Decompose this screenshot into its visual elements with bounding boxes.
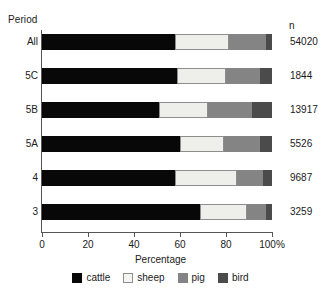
y-tick-label: 4 [2, 170, 38, 186]
bar-segment-cattle [42, 102, 159, 118]
bar-segment-cattle [42, 34, 175, 50]
bar-row: All54020 [42, 34, 272, 50]
n-column-header: n [289, 20, 295, 31]
x-axis-line [41, 232, 273, 233]
legend-swatch-bird [218, 273, 228, 283]
legend-swatch-cattle [72, 273, 82, 283]
chart-legend: cattlesheeppigbird [0, 272, 321, 283]
y-axis-title: Period [8, 14, 38, 25]
bar-segment-cattle [42, 136, 180, 152]
n-value-label: 1844 [290, 68, 321, 84]
x-axis-tick [272, 233, 273, 237]
y-tick-label: 5B [2, 102, 38, 118]
x-axis-tick [180, 233, 181, 237]
plot-area: All540205C18445B139175A55264968733259 [42, 30, 272, 232]
stacked-bar [42, 170, 272, 186]
y-tick-label: 3 [2, 204, 38, 220]
bar-row: 49687 [42, 170, 272, 186]
stacked-bar [42, 34, 272, 50]
legend-label: bird [232, 272, 249, 283]
x-axis-tick [88, 233, 89, 237]
bar-row: 5B13917 [42, 102, 272, 118]
x-tick-label: 40 [128, 239, 139, 250]
bar-segment-bird [260, 68, 272, 84]
bar-row: 33259 [42, 204, 272, 220]
bar-segment-pig [208, 102, 253, 118]
bar-segment-pig [229, 34, 266, 50]
bar-segment-pig [237, 170, 263, 186]
y-tick-label: 5C [2, 68, 38, 84]
legend-swatch-pig [178, 273, 188, 283]
n-value-label: 54020 [290, 34, 321, 50]
n-value-label: 3259 [290, 204, 321, 220]
bar-segment-bird [266, 34, 272, 50]
x-axis-caption: Percentage [0, 254, 321, 265]
n-value-label: 13917 [290, 102, 321, 118]
legend-swatch-sheep [123, 273, 133, 283]
x-axis-tick [226, 233, 227, 237]
x-tick-label: 100% [259, 239, 285, 250]
bar-segment-cattle [42, 68, 177, 84]
bar-segment-sheep [200, 204, 247, 220]
legend-label: sheep [137, 272, 164, 283]
legend-label: pig [192, 272, 205, 283]
bar-row: 5C1844 [42, 68, 272, 84]
n-value-label: 5526 [290, 136, 321, 152]
bar-segment-sheep [177, 68, 226, 84]
stacked-bar-chart-figure: Period n All540205C18445B139175A55264968… [0, 0, 321, 297]
bar-segment-bird [266, 204, 272, 220]
stacked-bar [42, 68, 272, 84]
legend-item-bird: bird [218, 272, 249, 283]
bar-segment-pig [224, 136, 261, 152]
x-tick-label: 20 [82, 239, 93, 250]
stacked-bar [42, 204, 272, 220]
bar-segment-sheep [180, 136, 224, 152]
bar-segment-sheep [175, 170, 237, 186]
bar-segment-pig [226, 68, 261, 84]
legend-item-cattle: cattle [72, 272, 110, 283]
bar-segment-sheep [159, 102, 207, 118]
x-axis-tick [134, 233, 135, 237]
bar-segment-cattle [42, 204, 200, 220]
n-value-label: 9687 [290, 170, 321, 186]
x-tick-label: 80 [220, 239, 231, 250]
bar-segment-cattle [42, 170, 175, 186]
bar-row: 5A5526 [42, 136, 272, 152]
stacked-bar [42, 102, 272, 118]
bar-segment-sheep [175, 34, 229, 50]
bar-segment-bird [252, 102, 272, 118]
stacked-bar [42, 136, 272, 152]
bar-segment-bird [260, 136, 272, 152]
x-axis-tick [42, 233, 43, 237]
bar-segment-bird [263, 170, 272, 186]
legend-item-sheep: sheep [123, 272, 164, 283]
bar-segment-pig [247, 204, 266, 220]
y-tick-label: All [2, 34, 38, 50]
legend-label: cattle [86, 272, 110, 283]
x-tick-label: 60 [174, 239, 185, 250]
legend-item-pig: pig [178, 272, 205, 283]
y-tick-label: 5A [2, 136, 38, 152]
x-tick-label: 0 [39, 239, 45, 250]
